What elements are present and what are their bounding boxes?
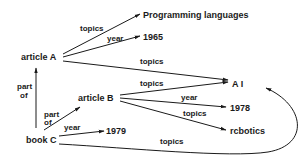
node-1979: 1979 [106, 126, 126, 136]
edge-label-c-year: year [64, 123, 80, 132]
edge-label-b-topics-ai: topics [140, 79, 164, 88]
node-1965: 1965 [143, 32, 163, 42]
edge-label-a-topics-ai: topics [140, 57, 164, 66]
node-robotics: rcbotics [230, 126, 265, 136]
node-article-b: article B [78, 93, 114, 103]
edge-label-c-partof-a-2: of [20, 91, 28, 100]
node-1978: 1978 [230, 103, 250, 113]
node-programming-languages: Programming languages [143, 10, 249, 20]
edge-label-c-partof-a-1: part [17, 82, 32, 91]
edge-label-a-topics-pl: topics [80, 24, 104, 33]
node-book-c: book C [26, 135, 57, 145]
edge-a-year-1965 [63, 36, 140, 57]
semantic-network-diagram: article A article B book C Programming l… [0, 0, 307, 160]
node-article-a: article A [21, 52, 57, 62]
edge-label-b-topics-robotics: topics [183, 109, 207, 118]
edge-label-a-year: year [107, 34, 123, 43]
edge-label-c-topics-ai: topics [160, 137, 184, 146]
edge-b-topics-ai [120, 82, 228, 95]
edge-label-c-partof-b-2: of [44, 118, 52, 127]
edge-label-b-year: year [181, 93, 197, 102]
node-ai: A I [232, 79, 243, 89]
edge-a-topics-programming [63, 14, 140, 54]
